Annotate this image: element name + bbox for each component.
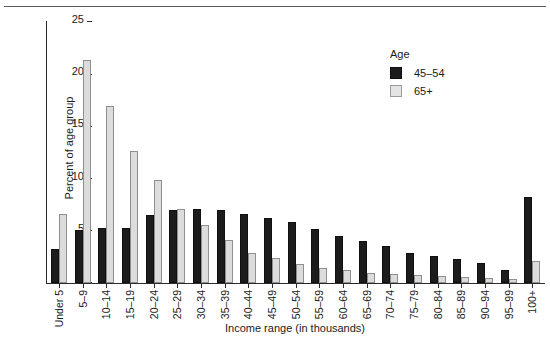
tick-mark	[106, 284, 107, 288]
x-tick-label: 45–49	[266, 290, 277, 319]
tick-mark	[390, 284, 391, 288]
bar	[485, 278, 493, 283]
bar-group	[142, 22, 166, 283]
bar	[390, 274, 398, 283]
x-axis-title: Income range (in thousands)	[46, 322, 544, 334]
x-tick-label: 20–24	[148, 290, 159, 319]
tick-mark	[461, 284, 462, 288]
bar-group	[118, 22, 142, 283]
tick-mark	[296, 284, 297, 288]
x-tick-label: 30–34	[195, 290, 206, 319]
x-tick-label: 50–54	[290, 290, 301, 319]
x-tick-label: 55–59	[314, 290, 325, 319]
legend: Age 45–5465+	[390, 48, 510, 103]
bar	[51, 249, 59, 283]
bar-group	[307, 22, 331, 283]
x-tick-label: 65–69	[361, 290, 372, 319]
bar	[359, 241, 367, 283]
bar-group	[165, 22, 189, 283]
tick-mark	[319, 284, 320, 288]
x-tick-label: 75–79	[408, 290, 419, 319]
x-tick-label: 15–19	[124, 290, 135, 319]
x-tick-label: 80–84	[432, 290, 443, 319]
bar-group	[284, 22, 308, 283]
bar-group	[355, 22, 379, 283]
bar	[477, 263, 485, 283]
x-tick-label: 10–14	[101, 290, 112, 319]
bar-group	[520, 22, 544, 283]
bar-group	[47, 22, 71, 283]
bar	[201, 225, 209, 283]
bar	[367, 273, 375, 283]
bar-group	[260, 22, 284, 283]
bar	[509, 279, 517, 283]
x-tick-label: 25–29	[172, 290, 183, 319]
bar	[311, 229, 319, 283]
bar-group	[94, 22, 118, 283]
bar	[296, 264, 304, 283]
tick-mark	[485, 284, 486, 288]
bar-group	[189, 22, 213, 283]
tick-mark	[177, 284, 178, 288]
legend-entries: 45–5465+	[390, 67, 510, 97]
tick-mark	[59, 284, 60, 288]
bar-group	[331, 22, 355, 283]
x-tick-label: 60–64	[337, 290, 348, 319]
tick-mark	[438, 284, 439, 288]
bar	[319, 268, 327, 283]
bar	[106, 106, 114, 283]
tick-mark	[130, 284, 131, 288]
tick-mark	[248, 284, 249, 288]
bar	[217, 210, 225, 283]
bar-group	[71, 22, 95, 283]
legend-swatch	[390, 67, 402, 79]
bar	[98, 228, 106, 283]
x-tick-label: 100+	[527, 290, 538, 314]
bar	[193, 209, 201, 283]
bar	[248, 253, 256, 283]
bar	[240, 214, 248, 283]
bar	[264, 218, 272, 283]
legend-entry: 45–54	[390, 67, 510, 79]
bar	[288, 222, 296, 283]
x-tick-label: 5–9	[77, 290, 88, 308]
bar	[130, 151, 138, 283]
legend-entry: 65+	[390, 85, 510, 97]
tick-mark	[225, 284, 226, 288]
tick-mark	[272, 284, 273, 288]
bar	[335, 236, 343, 283]
bar	[453, 259, 461, 283]
chart-figure: 0510152025 Percent of age group Under 55…	[0, 0, 550, 339]
legend-swatch	[390, 85, 402, 97]
bar	[146, 215, 154, 283]
tick-mark	[83, 284, 84, 288]
bar	[177, 209, 185, 283]
bar	[382, 246, 390, 283]
bar	[414, 275, 422, 283]
legend-label: 45–54	[414, 67, 445, 79]
bar	[169, 210, 177, 283]
bar	[343, 270, 351, 283]
bar-group	[236, 22, 260, 283]
x-tick-label: 40–44	[243, 290, 254, 319]
bar	[438, 276, 446, 283]
header-divider	[4, 6, 546, 7]
bar	[501, 270, 509, 283]
x-tick-label: 35–39	[219, 290, 230, 319]
x-tick-label: 70–74	[385, 290, 396, 319]
bar	[83, 60, 91, 283]
bar	[154, 180, 162, 283]
tick-mark	[367, 284, 368, 288]
x-tick-label: 95–99	[503, 290, 514, 319]
bar	[532, 261, 540, 283]
tick-mark	[343, 284, 344, 288]
legend-label: 65+	[414, 85, 433, 97]
bar	[430, 256, 438, 283]
bar	[524, 197, 532, 283]
bar	[59, 214, 67, 283]
bar	[75, 230, 83, 283]
x-tick-label: 85–89	[456, 290, 467, 319]
x-tick-label: 90–94	[479, 290, 490, 319]
bar	[225, 240, 233, 283]
tick-mark	[532, 284, 533, 288]
